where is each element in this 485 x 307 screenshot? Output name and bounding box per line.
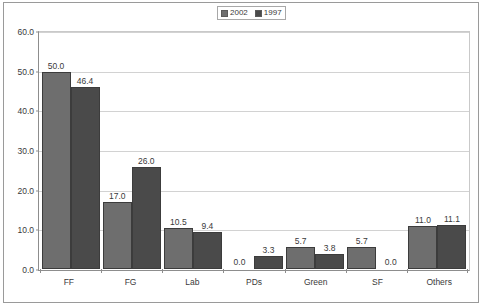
y-axis-tick-label: 30.0 (17, 147, 34, 156)
bar-value-label: 3.8 (324, 244, 336, 253)
plot-wrapper: 60.050.040.030.020.010.00.0 50.046.417.0… (38, 31, 470, 271)
bar-value-label: 5.7 (356, 237, 368, 246)
x-axis-tick-mark (162, 269, 163, 273)
bar-ff-2002: 50.0 (42, 72, 71, 269)
y-axis-tick-label: 50.0 (17, 67, 34, 76)
bar-value-label: 46.4 (77, 77, 94, 86)
bar-group-sf: 5.70.0 (346, 33, 407, 269)
bar-pds-1997: 3.3 (254, 256, 283, 269)
x-axis-tick-mark (346, 269, 347, 273)
legend-entry-2002: 2002 (221, 9, 248, 17)
bar-group-green: 5.73.8 (285, 33, 346, 269)
y-axis-tick-mark (36, 190, 39, 191)
x-axis-label-ff: FF (38, 277, 100, 287)
x-axis-tick-mark (101, 269, 102, 273)
bar-group-ff: 50.046.4 (40, 33, 101, 269)
x-axis-tick-mark (285, 269, 286, 273)
bar-group-others: 11.011.1 (407, 33, 468, 269)
legend-swatch-1997 (255, 10, 262, 17)
bar-group-pds: 0.03.3 (223, 33, 284, 269)
bar-fg-1997: 26.0 (132, 167, 161, 269)
x-axis-label-fg: FG (100, 277, 162, 287)
bar-chart: 2002 1997 60.050.040.030.020.010.00.0 50… (0, 0, 485, 307)
legend-label-1997: 1997 (264, 9, 282, 17)
chart-legend: 2002 1997 (217, 6, 286, 20)
y-axis-tick-label: 0.0 (22, 266, 34, 275)
bar-value-label: 5.7 (295, 237, 307, 246)
x-axis-label-lab: Lab (161, 277, 223, 287)
x-axis-labels: FFFGLabPDsGreenSFOthers (38, 277, 470, 287)
plot-area: 60.050.040.030.020.010.00.0 50.046.417.0… (38, 31, 470, 271)
x-axis-label-green: Green (285, 277, 347, 287)
y-axis-tick-label: 20.0 (17, 186, 34, 195)
x-axis-tick-mark (407, 269, 408, 273)
x-axis-label-sf: SF (347, 277, 409, 287)
bar-fg-2002: 17.0 (103, 202, 132, 269)
bar-lab-2002: 10.5 (164, 228, 193, 269)
bar-groups: 50.046.417.026.010.59.40.03.35.73.85.70.… (40, 33, 468, 269)
bar-value-label: 0.0 (385, 258, 397, 267)
y-axis-tick-mark (36, 32, 39, 33)
bar-others-1997: 11.1 (437, 225, 466, 269)
x-axis-tick-mark (40, 269, 41, 273)
bar-lab-1997: 9.4 (193, 232, 222, 269)
bar-group-fg: 17.026.0 (101, 33, 162, 269)
bar-ff-1997: 46.4 (71, 87, 100, 270)
x-axis-tick-mark (223, 269, 224, 273)
y-axis-tick-label: 10.0 (17, 226, 34, 235)
bar-green-1997: 3.8 (315, 254, 344, 269)
bar-value-label: 50.0 (48, 62, 65, 71)
bar-value-label: 9.4 (201, 222, 213, 231)
bar-value-label: 0.0 (234, 258, 246, 267)
bar-value-label: 11.1 (444, 215, 460, 224)
bar-green-2002: 5.7 (286, 247, 315, 269)
legend-entry-1997: 1997 (255, 9, 282, 17)
y-axis-tick-mark (36, 71, 39, 72)
bar-value-label: 11.0 (415, 216, 431, 225)
legend-swatch-2002 (221, 10, 228, 17)
bar-sf-2002: 5.7 (347, 247, 376, 269)
bar-group-lab: 10.59.4 (162, 33, 223, 269)
y-axis-tick-mark (36, 270, 39, 271)
bar-value-label: 3.3 (263, 246, 275, 255)
bar-others-2002: 11.0 (408, 226, 437, 269)
y-axis-tick-mark (36, 151, 39, 152)
legend-label-2002: 2002 (230, 9, 248, 17)
y-axis-tick-label: 40.0 (17, 107, 34, 116)
x-axis-label-pds: PDs (223, 277, 285, 287)
y-axis-tick-mark (36, 111, 39, 112)
x-axis-label-others: Others (408, 277, 470, 287)
y-axis-tick-mark (36, 230, 39, 231)
bar-value-label: 10.5 (170, 218, 187, 227)
y-axis-tick-label: 60.0 (17, 28, 34, 37)
x-axis-tick-mark (467, 269, 468, 273)
bar-value-label: 17.0 (109, 192, 126, 201)
bar-value-label: 26.0 (138, 157, 155, 166)
